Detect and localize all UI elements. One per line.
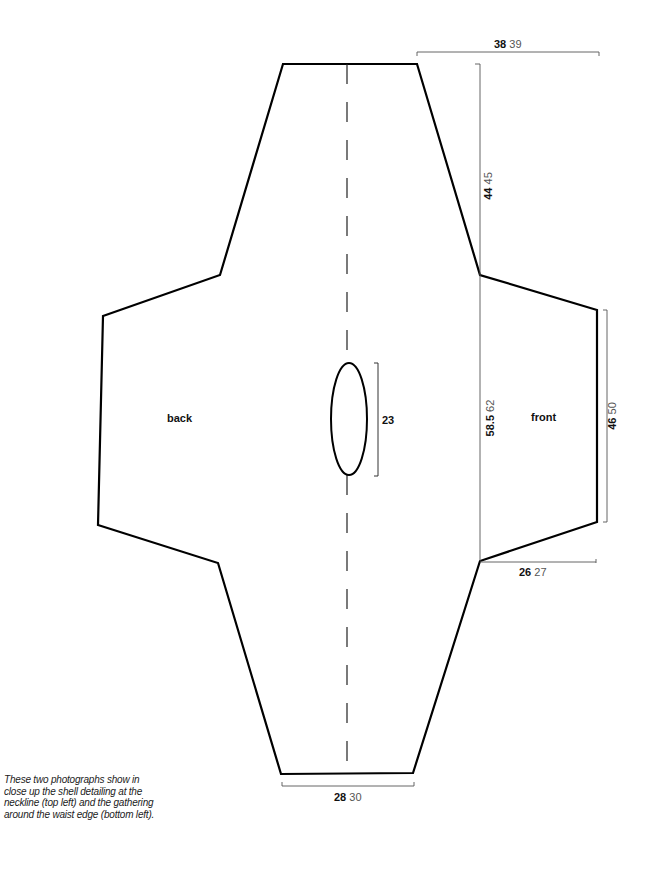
bottom-width-primary: 28 <box>334 791 346 803</box>
garment-pattern-diagram <box>0 0 653 874</box>
shoulder-length-primary: 44 <box>482 188 494 200</box>
photo-caption: These two photographs show in close up t… <box>4 774 164 820</box>
front-label: front <box>531 411 556 423</box>
sleeve-width-label: 46 50 <box>606 396 618 436</box>
back-label: back <box>167 412 192 424</box>
sleeve-depth-secondary: 27 <box>534 566 546 578</box>
bottom-width-dimension <box>282 782 414 786</box>
body-length-secondary: 62 <box>484 400 496 412</box>
top-width-secondary: 39 <box>509 38 521 50</box>
bottom-width-secondary: 30 <box>349 791 361 803</box>
sleeve-width-secondary: 50 <box>606 402 618 414</box>
body-length-label: 58.5 62 <box>484 390 496 446</box>
neck-opening <box>331 363 367 475</box>
shoulder-length-label: 44 45 <box>482 166 494 206</box>
body-length-primary: 58.5 <box>484 415 496 436</box>
top-width-dimension <box>417 52 599 56</box>
sleeve-depth-primary: 26 <box>519 566 531 578</box>
sleeve-depth-label: 26 27 <box>519 566 547 578</box>
top-width-primary: 38 <box>494 38 506 50</box>
top-width-label: 38 39 <box>494 38 522 50</box>
neck-opening-label: 23 <box>382 414 394 426</box>
shoulder-length-secondary: 45 <box>482 172 494 184</box>
bottom-width-label: 28 30 <box>334 791 362 803</box>
sleeve-depth-dimension <box>480 559 596 563</box>
neck-dimension <box>374 363 378 476</box>
sleeve-width-primary: 46 <box>606 418 618 430</box>
